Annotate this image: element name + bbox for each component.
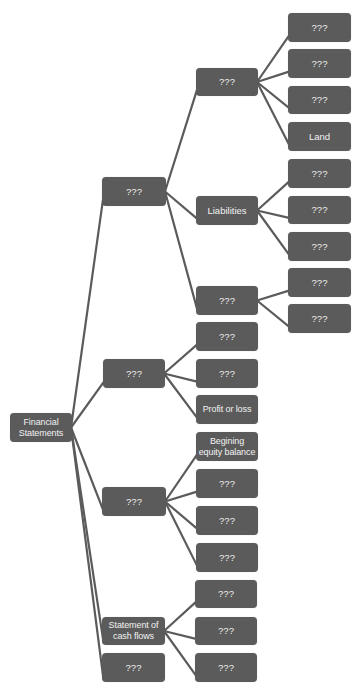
connector-root-l1e [71,428,103,676]
diagram-node: ??? [195,653,257,682]
diagram-node: ??? [288,304,351,333]
diagram-node: ??? [103,359,165,388]
diagram-node: Begining equity balance [196,432,258,461]
connector-root-l1a [71,200,103,428]
diagram-node: ??? [288,159,351,188]
connector-l1b-l2d [164,345,197,374]
diagram-node: ??? [196,469,258,498]
diagram-node: ??? [288,196,351,224]
diagram-node: Land [288,122,351,151]
connector-l1c-l2g [165,455,197,502]
diagram-node: Profit or loss [196,395,258,424]
connector-l1c-l2j [165,502,197,566]
connector-l2a-l3c [257,82,289,108]
diagram-node: Statement of cash flows [102,617,165,645]
diagram-node: ??? [102,653,165,682]
connector-l2c-l3i [257,301,289,327]
diagram-node: ??? [196,68,258,96]
connector-l1c-l2i [165,502,197,529]
diagram-node: ??? [195,617,257,645]
diagram-node: ??? [196,359,258,388]
connector-l1a-l2c [165,192,197,309]
diagram-node: ??? [195,580,257,608]
connector-l2c-l3h [257,291,289,301]
diagram-node: ??? [288,13,351,42]
diagram-node: ??? [196,322,258,351]
diagram-node: ??? [102,177,166,206]
root-node: Financial Statements [10,413,72,442]
diagram-node: ??? [288,86,351,114]
diagram-node: ??? [196,506,258,535]
connector-l2a-l3d [257,82,289,145]
diagram-node: Liabilities [196,196,258,225]
connector-l1a-l2a [165,90,197,192]
diagram-node: ??? [288,49,351,78]
financial-statements-tree-diagram: Financial Statements?????????Statement o… [0,0,359,700]
connector-l1d-l2k [164,602,196,631]
connector-l2a-l3a [257,36,289,82]
diagram-node: ??? [196,286,258,315]
diagram-node: ??? [288,232,351,261]
diagram-node: ??? [102,487,166,516]
connector-l2b-l3e [257,182,289,211]
diagram-node: ??? [196,543,258,572]
diagram-node: ??? [288,268,351,297]
